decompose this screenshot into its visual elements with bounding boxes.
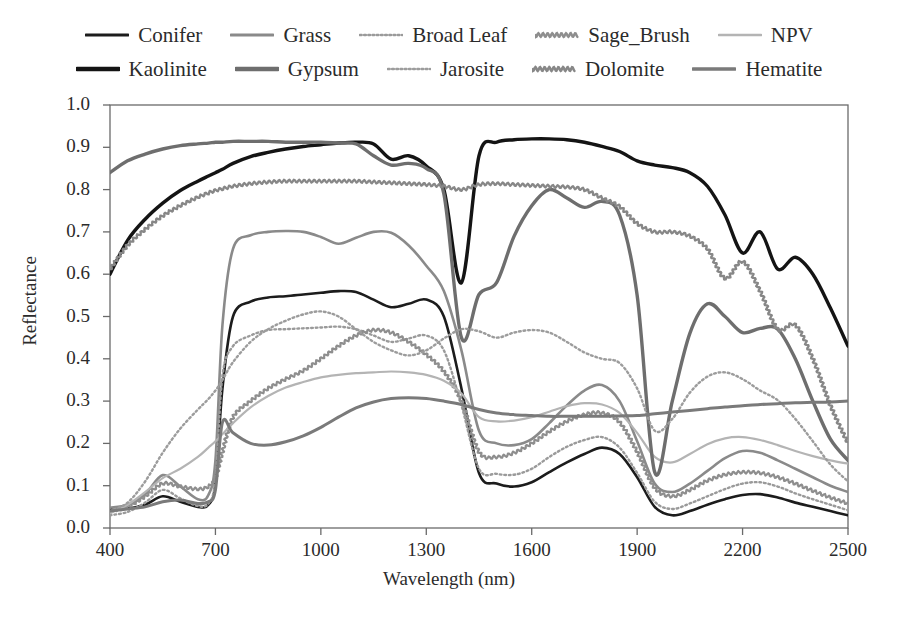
- y-tick-label: 0.2: [38, 431, 90, 453]
- series-group: [110, 139, 849, 516]
- x-tick-label: 700: [185, 539, 245, 561]
- y-tick-label: 0.0: [38, 516, 90, 538]
- y-tick-label: 0.8: [38, 178, 90, 200]
- x-tick-label: 1300: [396, 539, 456, 561]
- chart-canvas: [0, 0, 898, 623]
- plot-area: [0, 0, 898, 623]
- x-tick-label: 400: [80, 539, 140, 561]
- y-tick-label: 0.3: [38, 389, 90, 411]
- x-tick-label: 1000: [291, 539, 351, 561]
- y-tick-label: 0.7: [38, 220, 90, 242]
- x-tick-label: 1600: [502, 539, 562, 561]
- y-tick-label: 0.4: [38, 347, 90, 369]
- y-tick-label: 0.6: [38, 262, 90, 284]
- spectral-reflectance-figure: ConiferGrassBroad LeafSage_BrushNPVKaoli…: [0, 0, 898, 623]
- y-tick-label: 0.9: [38, 135, 90, 157]
- x-tick-label: 2500: [818, 539, 878, 561]
- y-tick-label: 0.1: [38, 474, 90, 496]
- x-axis-title: Wavelength (nm): [0, 568, 898, 590]
- y-tick-label: 0.5: [38, 305, 90, 327]
- y-tick-label: 1.0: [38, 93, 90, 115]
- series-line-kaolinite: [110, 139, 848, 346]
- x-tick-label: 2200: [713, 539, 773, 561]
- x-tick-label: 1900: [607, 539, 667, 561]
